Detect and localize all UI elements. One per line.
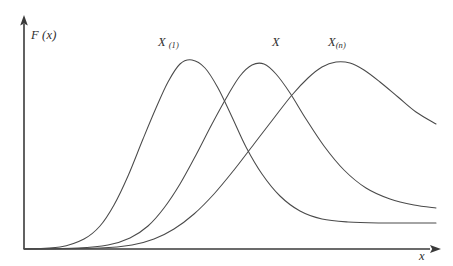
curve-label-x-min-base: X	[158, 35, 166, 49]
y-axis-arrow-icon	[20, 15, 28, 26]
curve-label-x: X	[272, 36, 280, 50]
axes-group	[20, 15, 441, 253]
y-axis-label: F(x)	[31, 29, 57, 42]
curves-group	[24, 60, 436, 249]
density-curve-x-min	[24, 60, 436, 249]
curve-label-x-min-subscript: (1)	[169, 40, 179, 50]
x-axis-label: x	[419, 250, 425, 263]
density-curve-x-max	[24, 62, 436, 249]
curve-label-x-max: X(n)	[328, 36, 346, 50]
y-axis-label-base: F	[31, 28, 39, 42]
plot-canvas	[0, 0, 453, 266]
curve-label-x-min: X(1)	[158, 36, 179, 50]
curve-label-x-max-base: X	[328, 35, 336, 49]
y-axis-label-arg: (x)	[42, 28, 57, 42]
density-curve-x	[24, 63, 436, 249]
order-statistics-figure: F(x) x X(1) X X(n)	[0, 0, 453, 266]
x-axis-arrow-icon	[430, 245, 441, 253]
curve-label-x-max-subscript: (n)	[336, 40, 346, 50]
curve-label-x-base: X	[272, 35, 280, 49]
